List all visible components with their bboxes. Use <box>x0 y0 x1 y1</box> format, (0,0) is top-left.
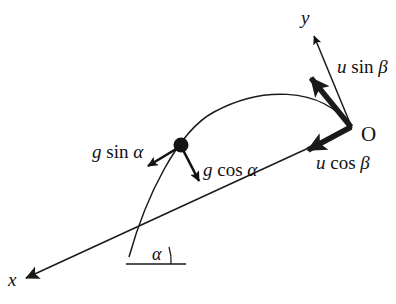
g-cos-alpha-label: g cos α <box>203 160 257 179</box>
angle-alpha-arc <box>169 247 171 264</box>
g-sin-alpha-function: sin <box>106 141 128 162</box>
angle-alpha-label: α <box>152 245 161 263</box>
u-cos-beta-function: cos <box>330 152 355 173</box>
g-cos-alpha-angle: α <box>247 159 257 180</box>
origin-label: O <box>361 124 376 145</box>
y-axis-line <box>314 36 352 128</box>
x-axis-line <box>26 128 352 278</box>
u-sin-beta-label: u sin β <box>337 57 388 76</box>
g-cos-alpha-variable: g <box>203 159 213 180</box>
u-cos-beta-label: u cos β <box>316 153 370 172</box>
particle-dot <box>174 138 189 153</box>
u-cos-beta-vector <box>308 127 351 150</box>
projectile-inclined-plane-figure: y x O α u sin β u cos β g sin α g cos α <box>0 0 396 304</box>
u-cos-beta-variable: u <box>316 152 326 173</box>
y-axis-label: y <box>301 8 309 27</box>
g-sin-alpha-variable: g <box>92 141 102 162</box>
g-cos-alpha-function: cos <box>217 159 242 180</box>
u-sin-beta-variable: u <box>337 56 347 77</box>
x-axis-label: x <box>8 270 16 289</box>
u-sin-beta-angle: β <box>378 56 387 77</box>
u-sin-beta-vector <box>311 78 351 127</box>
u-cos-beta-angle: β <box>360 152 369 173</box>
g-sin-alpha-label: g sin α <box>92 142 143 161</box>
g-sin-alpha-angle: α <box>133 141 143 162</box>
u-sin-beta-function: sin <box>351 56 373 77</box>
